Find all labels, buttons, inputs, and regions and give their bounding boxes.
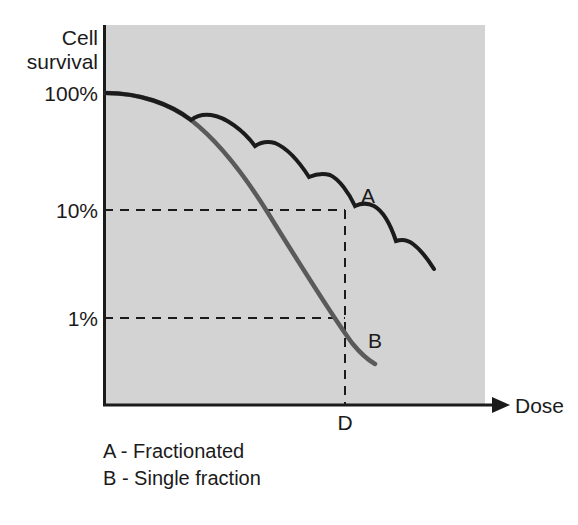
y-tick-label-10-percent: 10% [56, 199, 98, 222]
legend-item-a: A - Fractionated [103, 440, 244, 462]
curve-label-b: B [368, 329, 382, 352]
figure-container: Cell survival 100% 10% 1% D Dose A B A -… [0, 0, 578, 525]
cell-survival-chart: Cell survival 100% 10% 1% D Dose A B A -… [0, 0, 578, 525]
x-axis-arrowhead [492, 397, 510, 413]
x-axis-title: Dose [515, 394, 564, 417]
y-tick-label-100-percent: 100% [44, 82, 98, 105]
legend-item-b: B - Single fraction [103, 467, 261, 489]
y-axis-title-line2: survival [27, 50, 98, 73]
curve-label-a: A [361, 184, 375, 207]
plot-background [104, 25, 485, 405]
x-tick-label-D: D [337, 411, 352, 434]
y-axis-title-line1: Cell [62, 26, 98, 49]
y-tick-label-1-percent: 1% [68, 307, 98, 330]
